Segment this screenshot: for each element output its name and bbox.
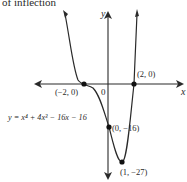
point-label-0-neg16: (0, −16) xyxy=(112,123,140,133)
curve-arrow-left-icon xyxy=(63,10,68,18)
x-axis-label: x xyxy=(180,86,186,97)
y-axis-label: y xyxy=(100,8,106,19)
equation-label: y = x⁴ + 4x³ − 16x − 16 xyxy=(7,113,88,122)
point-neg2-0 xyxy=(81,81,86,86)
point-label-2-0: (2, 0) xyxy=(137,69,156,79)
point-2-0 xyxy=(131,81,136,86)
curve-arrow-right-icon xyxy=(135,9,139,17)
point-label-1-neg27: (1, −27) xyxy=(120,167,148,177)
point-0-neg16 xyxy=(106,124,111,129)
origin-label: 0 xyxy=(101,87,106,97)
caption: of inflection xyxy=(2,0,57,8)
function-graph: of inflection x y 0 (−2, 0) (2, 0) (0, −… xyxy=(0,0,187,182)
point-1-neg27 xyxy=(119,159,124,164)
point-label-neg2-0: (−2, 0) xyxy=(55,87,78,97)
